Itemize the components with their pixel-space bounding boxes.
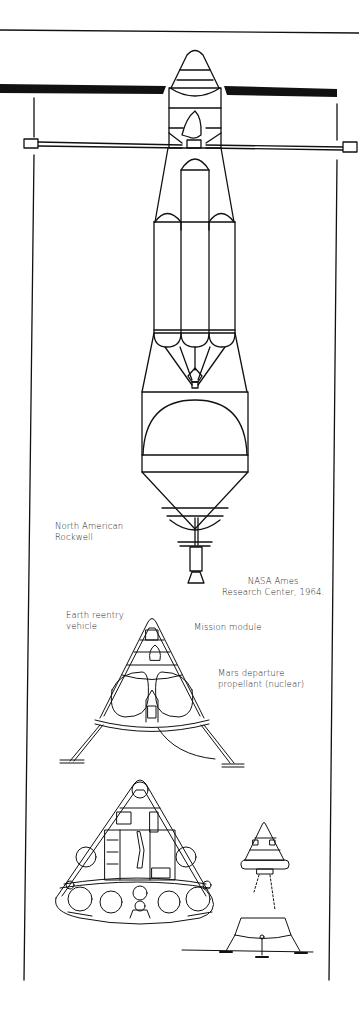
maker-label: North American Rockwell [55,521,123,543]
mars-departure-label: Mars departure propellant (nuclear) [218,668,304,690]
mission-module-line1: Mission module [194,622,261,633]
mars-lander-cutaway [60,619,244,768]
mars-departure-line1: Mars departure [218,668,304,679]
reentry-capsule-cutaway [56,780,214,924]
solar-panel-right [224,86,337,97]
credit-label: NASA Ames Research Center, 1964. [222,576,324,598]
mission-module-label: Mission module [194,622,261,633]
credit-line1: NASA Ames [222,576,324,587]
propellant-tanks [142,148,247,392]
earth-reentry-label: Earth reentry vehicle [66,610,124,632]
mars-mission-diagram [0,0,359,1010]
maker-line1: North American [55,521,123,532]
separation-sequence [182,823,313,958]
nose-cone [170,51,220,97]
top-frame-line [0,30,359,33]
solar-panel-left [0,84,166,94]
maker-line2: Rockwell [55,532,123,543]
crew-module [169,88,221,148]
truss-boom [24,139,357,152]
earth-reentry-line1: Earth reentry [66,610,124,621]
credit-line2: Research Center, 1964. [222,587,324,598]
mars-departure-line2: propellant (nuclear) [218,679,304,690]
spherical-tank [142,392,248,530]
earth-reentry-line2: vehicle [66,621,124,632]
